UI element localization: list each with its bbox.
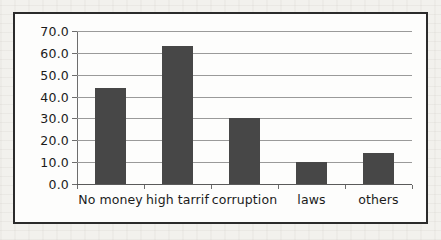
x-axis-tick	[144, 185, 145, 189]
y-axis-tick	[72, 97, 77, 98]
x-axis-tick-label: corruption	[212, 192, 277, 207]
y-axis-tick-label: 40.0	[15, 89, 69, 104]
plot-area	[77, 31, 412, 184]
x-axis-tick-label: laws	[297, 192, 325, 207]
x-axis-tick	[278, 185, 279, 189]
x-axis-tick	[412, 185, 413, 189]
bar-chart: 0.010.020.030.040.050.060.070.0 No money…	[15, 14, 426, 222]
y-axis-tick-label: 70.0	[15, 24, 69, 39]
bar-series	[77, 31, 412, 184]
y-axis-tick-label: 30.0	[15, 111, 69, 126]
bar	[95, 88, 126, 184]
y-axis-tick	[72, 118, 77, 119]
y-axis-tick-label: 0.0	[15, 177, 69, 192]
x-axis-labels: No moneyhigh tarrifcorruptionlawsothers	[77, 192, 412, 214]
y-axis-tick	[72, 140, 77, 141]
chart-figure-frame: 0.010.020.030.040.050.060.070.0 No money…	[13, 12, 428, 224]
x-axis-tick-label: others	[358, 192, 398, 207]
bar	[296, 162, 327, 184]
x-axis-tick-label: high tarrif	[146, 192, 209, 207]
x-axis-tick	[345, 185, 346, 189]
bar	[162, 46, 193, 184]
bar	[363, 153, 394, 184]
y-axis-tick-label: 60.0	[15, 45, 69, 60]
x-axis-tick	[77, 185, 78, 189]
x-axis-tick-label: No money	[78, 192, 143, 207]
x-axis-ticks	[77, 185, 413, 190]
y-axis-tick-label: 10.0	[15, 155, 69, 170]
y-axis-tick-label: 50.0	[15, 67, 69, 82]
y-axis-tick	[72, 75, 77, 76]
y-axis-tick-label: 20.0	[15, 133, 69, 148]
y-axis-labels: 0.010.020.030.040.050.060.070.0	[15, 14, 69, 222]
y-axis-tick	[72, 184, 77, 185]
x-axis-tick	[211, 185, 212, 189]
bar	[229, 118, 260, 184]
y-axis-tick	[72, 162, 77, 163]
y-axis-tick	[72, 53, 77, 54]
y-axis-tick	[72, 31, 77, 32]
